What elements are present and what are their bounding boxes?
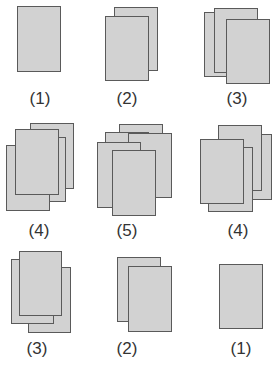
figure-label: (3) bbox=[17, 340, 57, 357]
sheet bbox=[15, 129, 59, 195]
figure-label: (2) bbox=[107, 90, 147, 107]
figure-label: (2) bbox=[107, 340, 147, 357]
stacked-sheets-diagram: (1)(2)(3)(4)(5)(4)(3)(2)(1) bbox=[0, 0, 279, 366]
sheet bbox=[226, 19, 270, 84]
figure-label: (3) bbox=[217, 90, 257, 107]
sheet bbox=[19, 251, 62, 316]
figure-label: (5) bbox=[107, 222, 147, 239]
sheet bbox=[112, 150, 156, 216]
sheet bbox=[219, 264, 263, 329]
sheet bbox=[128, 266, 172, 332]
figure-label: (1) bbox=[221, 340, 261, 357]
figure-label: (1) bbox=[20, 90, 60, 107]
sheet bbox=[105, 16, 149, 81]
sheet bbox=[200, 139, 244, 204]
figure-label: (4) bbox=[218, 222, 258, 239]
figure-label: (4) bbox=[19, 222, 59, 239]
sheet bbox=[17, 6, 61, 72]
